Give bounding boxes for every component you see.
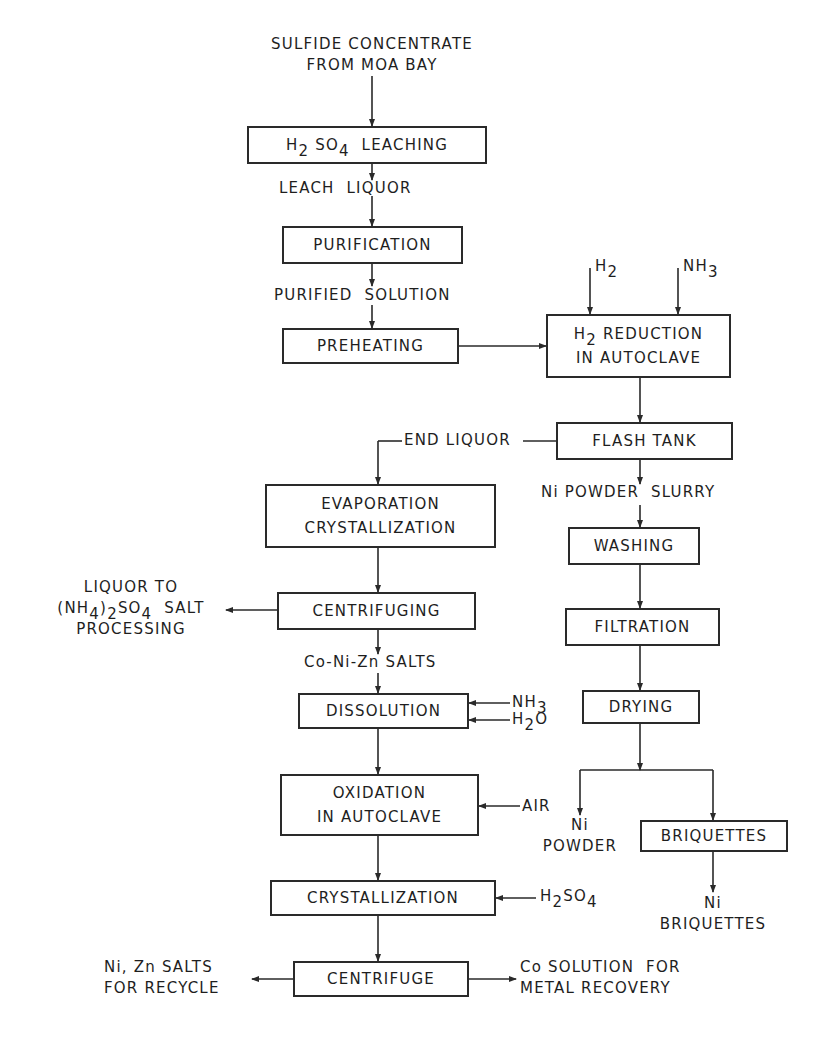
node-preheating-label: PREHEATING [317,334,424,358]
stream-nh3-input: NH3 [683,256,719,277]
node-purification-label: PURIFICATION [313,233,432,257]
co-solution-line2: METAL RECOVERY [520,978,681,999]
node-centrifuge: CENTRIFUGE [293,961,469,997]
product-ni-zn-salts: Ni, Zn SALTS FOR RECYCLE [104,957,220,999]
node-crystallization-label: CRYSTALLIZATION [307,886,459,910]
node-briquettes-label: BRIQUETTES [661,824,767,848]
stream-purified-solution: PURIFIED SOLUTION [274,285,451,306]
ni-zn-salts-line2: FOR RECYCLE [104,978,220,999]
stream-air: AIR [522,796,551,817]
node-washing-label: WASHING [594,534,675,558]
node-evaporation-line2: CRYSTALLIZATION [304,516,456,540]
stream-h2-input: H2 [595,256,618,277]
node-reduction-line1: H2 REDUCTION [574,322,704,346]
stream-end-liquor: END LIQUOR [404,430,511,451]
flowchart: SULFIDE CONCENTRATE FROM MOA BAY H2 SO4 … [0,0,834,1042]
stream-leach-liquor: LEACH LIQUOR [279,178,412,199]
node-dissolution: DISSOLUTION [298,693,469,729]
node-flash-tank-label: FLASH TANK [592,429,696,453]
ni-briquettes-line2: BRIQUETTES [643,914,783,935]
liquor-to-line1: LIQUOR TO [38,577,224,598]
node-filtration: FILTRATION [565,608,720,646]
stream-co-ni-zn-salts: Co-Ni-Zn SALTS [304,652,437,673]
ni-powder-line1: Ni [530,815,630,836]
node-oxidation-line2: IN AUTOCLAVE [317,805,442,829]
node-flash-tank: FLASH TANK [556,422,733,460]
liquor-to-line3: PROCESSING [38,619,224,640]
node-centrifuging-label: CENTRIFUGING [312,599,440,623]
ni-powder-line2: POWDER [530,836,630,857]
node-centrifuge-label: CENTRIFUGE [327,967,435,991]
node-evaporation-line1: EVAPORATION [321,492,440,516]
stream-h2so4-input: H2SO4 [540,886,598,907]
node-reduction-line2: IN AUTOCLAVE [576,346,701,370]
product-co-solution: Co SOLUTION FOR METAL RECOVERY [520,957,681,999]
node-purification: PURIFICATION [282,226,463,264]
co-solution-line1: Co SOLUTION FOR [520,957,681,978]
node-filtration-label: FILTRATION [594,615,690,639]
stream-dissolution-h2o: H2O [512,709,548,730]
product-ni-powder: Ni POWDER [530,815,630,857]
node-crystallization: CRYSTALLIZATION [270,880,496,916]
node-oxidation-line1: OXIDATION [333,781,426,805]
stream-ni-powder-slurry: Ni POWDER SLURRY [541,482,715,503]
node-dissolution-label: DISSOLUTION [326,699,441,723]
node-centrifuging: CENTRIFUGING [277,592,476,630]
node-preheating: PREHEATING [282,328,459,364]
product-ni-briquettes: Ni BRIQUETTES [643,893,783,935]
node-washing: WASHING [568,527,700,565]
node-leaching: H2 SO4 LEACHING [247,126,487,164]
node-evaporation: EVAPORATION CRYSTALLIZATION [265,484,496,548]
source-label: SULFIDE CONCENTRATE FROM MOA BAY [222,34,522,76]
ni-briquettes-line1: Ni [643,893,783,914]
node-drying-label: DRYING [609,695,674,719]
liquor-to-line2: (NH4)2SO4 SALT [38,598,224,619]
source-line2: FROM MOA BAY [222,55,522,76]
node-oxidation: OXIDATION IN AUTOCLAVE [280,774,479,836]
node-leaching-label: H2 SO4 LEACHING [286,133,448,157]
ni-zn-salts-line1: Ni, Zn SALTS [104,957,220,978]
node-drying: DRYING [582,690,700,724]
node-briquettes: BRIQUETTES [640,820,788,852]
stream-liquor-to-salt-processing: LIQUOR TO (NH4)2SO4 SALT PROCESSING [38,577,224,640]
node-reduction: H2 REDUCTION IN AUTOCLAVE [546,314,731,378]
source-line1: SULFIDE CONCENTRATE [222,34,522,55]
